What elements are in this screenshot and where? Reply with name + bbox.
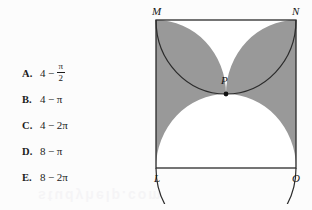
answer-choice-c-left-term: 4 <box>40 119 46 131</box>
answer-choice-c-expression: 4 − 2π <box>40 119 68 131</box>
answer-choice-b-letter: B. <box>22 94 40 105</box>
answer-choice-d-left-term: 8 <box>40 145 46 157</box>
worksheet-page: A. 4 − π 2 B. 4 − π C. 4 − <box>0 0 312 210</box>
answer-choice-a-left-term: 4 <box>40 67 46 79</box>
answer-choice-e-expression: 8 − 2π <box>40 171 68 183</box>
answer-choice-e-right-term: 2π <box>57 171 68 183</box>
answer-choice-d-right-term: π <box>57 145 63 157</box>
answer-choice-d[interactable]: D. 8 − π <box>22 138 132 164</box>
answer-choice-c-right-term: 2π <box>57 119 68 131</box>
answer-choice-d-operator: − <box>48 145 54 157</box>
answer-choice-e-left-term: 8 <box>40 171 46 183</box>
answer-choice-c[interactable]: C. 4 − 2π <box>22 112 132 138</box>
answer-choice-e-operator: − <box>48 171 54 183</box>
point-p-marker <box>224 92 229 97</box>
answer-choice-a-numerator: π <box>57 62 64 71</box>
answer-choice-a[interactable]: A. 4 − π 2 <box>22 60 132 86</box>
answer-choice-e-letter: E. <box>22 172 40 183</box>
answer-choice-d-letter: D. <box>22 146 40 157</box>
vertex-label-p: P <box>221 74 228 86</box>
answer-choice-a-fraction: π 2 <box>57 62 65 83</box>
vertex-label-n: N <box>292 5 299 17</box>
answer-choice-b[interactable]: B. 4 − π <box>22 86 132 112</box>
answer-choice-a-denominator: 2 <box>57 74 64 83</box>
answer-choice-b-right-term: π <box>57 93 63 105</box>
answer-choice-a-operator: − <box>48 67 54 79</box>
answer-choice-a-letter: A. <box>22 68 40 79</box>
vertex-label-l: L <box>154 172 160 184</box>
bottom-semicircle-arc <box>156 168 296 204</box>
vertex-label-o: O <box>292 172 300 184</box>
answer-choice-a-expression: 4 − π 2 <box>40 63 65 84</box>
answer-choice-b-expression: 4 − π <box>40 93 62 105</box>
answer-choice-c-letter: C. <box>22 120 40 131</box>
answer-choice-c-operator: − <box>48 119 54 131</box>
answer-choice-b-operator: − <box>48 93 54 105</box>
answer-choice-b-left-term: 4 <box>40 93 46 105</box>
answer-choices-list: A. 4 − π 2 B. 4 − π C. 4 − <box>22 60 132 190</box>
answer-choice-d-expression: 8 − π <box>40 145 62 157</box>
geometry-figure: M N L O P <box>142 4 310 204</box>
vertex-label-m: M <box>152 5 161 17</box>
answer-choice-e[interactable]: E. 8 − 2π <box>22 164 132 190</box>
square-with-semicircles-diagram <box>142 4 310 204</box>
